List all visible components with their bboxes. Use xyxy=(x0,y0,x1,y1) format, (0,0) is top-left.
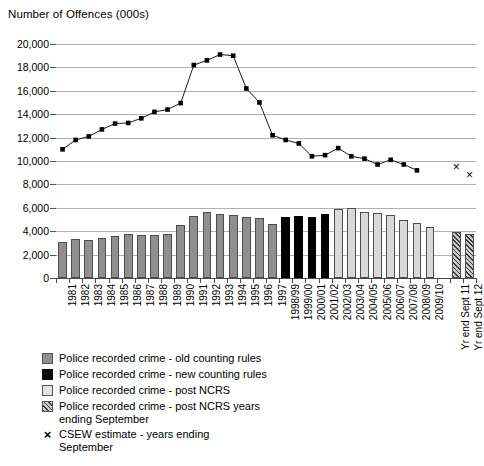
x-axis-tick xyxy=(161,278,162,283)
line-marker xyxy=(87,134,92,139)
y-axis-tick xyxy=(50,67,56,68)
x-axis-tick xyxy=(266,278,267,283)
x-axis-tick-label: 1987 xyxy=(145,284,156,306)
legend-item[interactable]: Police recorded crime - post NCRS years … xyxy=(42,400,342,425)
x-axis-tick-label: 2000/01 xyxy=(316,284,327,320)
y-axis-tick-label: 16,000 xyxy=(17,85,49,97)
x-axis-tick-label: 1984 xyxy=(106,284,117,306)
x-axis-tick-label: 1991 xyxy=(198,284,209,306)
x-axis-tick-label: 2002/03 xyxy=(342,284,353,320)
x-axis-tick-label: 1983 xyxy=(93,284,104,306)
legend-swatch-old xyxy=(42,353,53,364)
x-axis-tick xyxy=(319,278,320,283)
y-axis-tick xyxy=(50,255,56,256)
x-axis-ticks xyxy=(56,278,477,283)
x-axis-tick xyxy=(227,278,228,283)
legend-x-marker-icon: × xyxy=(42,429,53,440)
x-axis-tick-label: 2001/02 xyxy=(329,284,340,320)
x-axis-tick-label: 1999/00 xyxy=(303,284,314,320)
x-axis-labels: 1981198219831984198519861987198819891990… xyxy=(56,284,477,346)
csew-line-markers xyxy=(60,52,419,172)
x-axis-tick-label: 1981 xyxy=(67,284,78,306)
line-marker xyxy=(60,147,65,152)
x-axis-tick xyxy=(240,278,241,283)
legend-item[interactable]: ×CSEW estimate - years ending September xyxy=(42,428,342,453)
x-axis-tick-label: 2004/05 xyxy=(368,284,379,320)
legend-label: Police recorded crime - new counting rul… xyxy=(59,368,267,381)
line-marker xyxy=(349,154,354,159)
x-axis-tick-label: 2007/08 xyxy=(408,284,419,320)
line-series-layer: ×× xyxy=(56,44,476,278)
x-axis-tick xyxy=(279,278,280,283)
x-axis-tick-label: 2009/10 xyxy=(434,284,445,320)
y-axis-tick xyxy=(50,91,56,92)
x-axis-tick xyxy=(332,278,333,283)
line-marker xyxy=(126,121,131,126)
line-marker xyxy=(244,86,249,91)
line-marker xyxy=(402,162,407,167)
x-axis-tick-label: 1988 xyxy=(158,284,169,306)
line-marker xyxy=(113,121,118,126)
x-axis-tick xyxy=(450,278,451,283)
line-marker xyxy=(192,63,197,68)
x-axis-tick-label: Yr end Sept 12 xyxy=(473,284,484,351)
line-marker xyxy=(270,133,275,138)
line-marker xyxy=(362,156,367,161)
legend-label: Police recorded crime - post NCRS xyxy=(59,384,230,397)
line-marker xyxy=(323,153,328,158)
line-marker xyxy=(283,138,288,143)
x-marker: × xyxy=(466,168,473,182)
x-axis-tick xyxy=(437,278,438,283)
line-marker xyxy=(139,116,144,121)
y-axis-tick-label: 6,000 xyxy=(23,202,49,214)
legend-item[interactable]: Police recorded crime - new counting rul… xyxy=(42,368,342,381)
x-axis-tick-label: 1990 xyxy=(185,284,196,306)
y-axis-tick xyxy=(50,44,56,45)
x-axis-tick xyxy=(358,278,359,283)
chart-title: Number of Offences (000s) xyxy=(8,8,149,20)
x-axis-tick-label: 1989 xyxy=(172,284,183,306)
legend-label: CSEW estimate - years ending September xyxy=(59,428,209,453)
line-marker xyxy=(205,58,210,63)
line-marker xyxy=(165,107,170,112)
x-axis-tick xyxy=(174,278,175,283)
legend-swatch-postncrs-sept xyxy=(42,401,53,412)
y-axis-tick-label: 2,000 xyxy=(23,249,49,261)
csew-line-path xyxy=(63,55,417,171)
y-axis-tick xyxy=(50,161,56,162)
y-axis-tick-label: 14,000 xyxy=(17,108,49,120)
x-axis-tick-label: 1985 xyxy=(119,284,130,306)
line-marker xyxy=(218,52,223,57)
x-axis-tick-label: 1997 xyxy=(277,284,288,306)
x-axis-tick-label: 1996 xyxy=(263,284,274,306)
line-marker xyxy=(336,146,341,151)
x-axis-tick xyxy=(82,278,83,283)
legend-item[interactable]: Police recorded crime - old counting rul… xyxy=(42,352,342,365)
x-axis-tick xyxy=(69,278,70,283)
line-marker xyxy=(388,158,393,163)
x-axis-tick-label: 1992 xyxy=(211,284,222,306)
legend-item[interactable]: Police recorded crime - post NCRS xyxy=(42,384,342,397)
x-axis-tick xyxy=(187,278,188,283)
legend-label: Police recorded crime - old counting rul… xyxy=(59,352,261,365)
y-axis-tick-label: 4,000 xyxy=(23,225,49,237)
y-axis-tick xyxy=(50,138,56,139)
y-axis-tick-label: 12,000 xyxy=(17,132,49,144)
y-axis-tick-label: 10,000 xyxy=(17,155,49,167)
y-axis-tick-label: 0 xyxy=(43,272,49,284)
line-marker xyxy=(178,101,183,106)
x-axis-tick-label: 1998/99 xyxy=(290,284,301,320)
x-axis-tick-label: 1993 xyxy=(224,284,235,306)
csew-sept-x-markers: ×× xyxy=(453,160,473,182)
x-axis-tick xyxy=(463,278,464,283)
line-marker xyxy=(297,141,302,146)
y-axis-tick xyxy=(50,231,56,232)
x-axis-tick-label: 2003/04 xyxy=(355,284,366,320)
x-axis-tick-label: 2008/09 xyxy=(421,284,432,320)
x-axis-tick xyxy=(345,278,346,283)
line-marker xyxy=(415,168,420,173)
line-marker xyxy=(375,162,380,167)
line-marker xyxy=(231,53,236,58)
line-marker xyxy=(100,127,105,132)
